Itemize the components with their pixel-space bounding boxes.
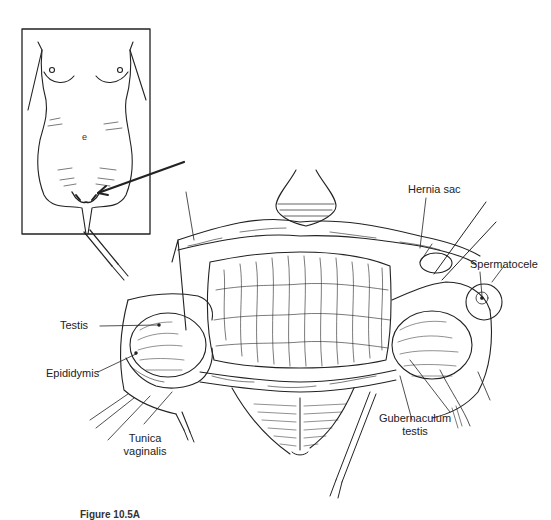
label-spermatocele: Spermatocele — [470, 258, 538, 271]
figure-caption-number: Figure 10.5A — [80, 509, 140, 520]
label-gubernaculum-testis: Gubernaculum testis — [370, 412, 460, 438]
label-gubernaculum-line1: Gubernaculum — [370, 412, 460, 425]
label-epididymis: Epididymis — [46, 367, 99, 380]
label-hernia-sac: Hernia sac — [408, 183, 461, 196]
label-gubernaculum-line2: testis — [370, 425, 460, 438]
inset-body-diagram: e — [22, 29, 150, 234]
label-testis: Testis — [60, 319, 88, 332]
label-tunica-vaginalis: Tunica vaginalis — [110, 432, 180, 458]
figure-caption: Figure 10.5A — [80, 509, 140, 520]
label-tunica-line2: vaginalis — [110, 445, 180, 458]
svg-text:e: e — [82, 132, 87, 142]
label-tunica-line1: Tunica — [110, 432, 180, 445]
